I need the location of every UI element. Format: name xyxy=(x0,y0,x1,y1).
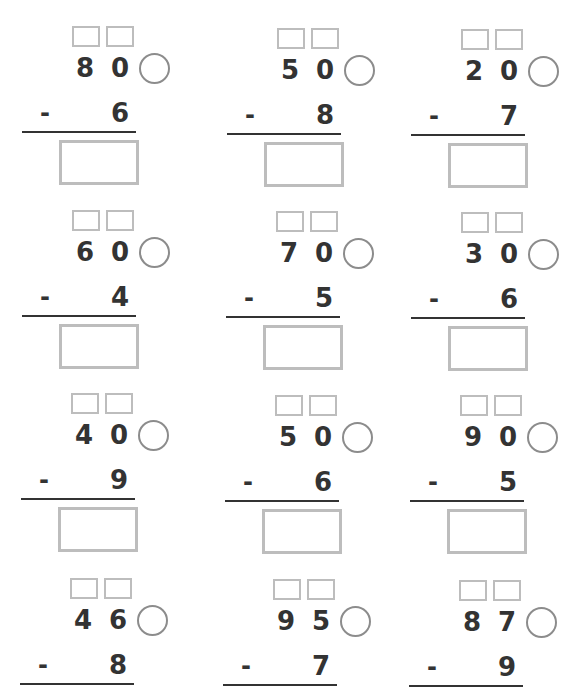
answer-line xyxy=(223,684,337,686)
minuend-tens-digit: 6 xyxy=(71,239,99,265)
regroup-tens-box[interactable] xyxy=(72,210,100,231)
regroup-ones-box[interactable] xyxy=(104,578,132,599)
minus-sign: - xyxy=(427,469,439,495)
answer-line xyxy=(21,498,135,500)
minus-sign: - xyxy=(39,100,51,126)
regroup-tens-box[interactable] xyxy=(461,29,489,50)
minus-sign: - xyxy=(38,467,50,493)
regroup-ones-box[interactable] xyxy=(310,211,338,232)
circle-icon[interactable] xyxy=(526,607,557,638)
answer-line xyxy=(410,500,524,502)
regroup-ones-box[interactable] xyxy=(106,26,134,47)
answer-box[interactable] xyxy=(59,324,139,369)
circle-icon[interactable] xyxy=(344,55,375,86)
subtrahend-digit: 6 xyxy=(309,469,337,495)
regroup-tens-box[interactable] xyxy=(273,579,301,600)
minus-sign: - xyxy=(39,284,51,310)
answer-line xyxy=(22,131,136,133)
answer-box[interactable] xyxy=(448,143,528,188)
regroup-ones-box[interactable] xyxy=(311,28,339,49)
answer-line xyxy=(411,134,525,136)
minuend-tens-digit: 8 xyxy=(458,609,486,635)
answer-box[interactable] xyxy=(58,507,138,552)
answer-line xyxy=(20,683,134,685)
minus-sign: - xyxy=(243,285,255,311)
minuend-ones-digit: 0 xyxy=(310,240,338,266)
answer-box[interactable] xyxy=(59,140,139,185)
answer-box[interactable] xyxy=(262,509,342,554)
regroup-ones-box[interactable] xyxy=(493,580,521,601)
minuend-tens-digit: 5 xyxy=(274,424,302,450)
minuend-tens-digit: 7 xyxy=(275,240,303,266)
subtrahend-digit: 8 xyxy=(104,652,132,678)
regroup-tens-box[interactable] xyxy=(70,578,98,599)
minuend-tens-digit: 8 xyxy=(71,55,99,81)
minuend-tens-digit: 2 xyxy=(460,58,488,84)
minuend-ones-digit: 0 xyxy=(494,424,522,450)
minuend-ones-digit: 6 xyxy=(104,607,132,633)
circle-icon[interactable] xyxy=(528,239,559,270)
regroup-tens-box[interactable] xyxy=(72,26,100,47)
regroup-tens-box[interactable] xyxy=(275,395,303,416)
minus-sign: - xyxy=(426,654,438,680)
subtrahend-digit: 8 xyxy=(311,102,339,128)
regroup-tens-box[interactable] xyxy=(459,580,487,601)
subtrahend-digit: 7 xyxy=(495,103,523,129)
circle-icon[interactable] xyxy=(528,56,559,87)
circle-icon[interactable] xyxy=(137,605,168,636)
minus-sign: - xyxy=(240,653,252,679)
regroup-tens-box[interactable] xyxy=(71,393,99,414)
answer-box[interactable] xyxy=(448,326,528,371)
answer-line xyxy=(227,133,341,135)
minuend-tens-digit: 9 xyxy=(272,608,300,634)
regroup-ones-box[interactable] xyxy=(494,395,522,416)
minuend-ones-digit: 0 xyxy=(106,55,134,81)
circle-icon[interactable] xyxy=(340,606,371,637)
subtrahend-digit: 9 xyxy=(105,467,133,493)
subtrahend-digit: 9 xyxy=(493,654,521,680)
circle-icon[interactable] xyxy=(139,53,170,84)
answer-line xyxy=(226,316,340,318)
answer-box[interactable] xyxy=(263,325,343,370)
minuend-ones-digit: 0 xyxy=(309,424,337,450)
minuend-ones-digit: 0 xyxy=(105,422,133,448)
minus-sign: - xyxy=(242,469,254,495)
subtrahend-digit: 4 xyxy=(106,284,134,310)
circle-icon[interactable] xyxy=(342,422,373,453)
regroup-ones-box[interactable] xyxy=(495,29,523,50)
minuend-ones-digit: 0 xyxy=(106,239,134,265)
minus-sign: - xyxy=(428,286,440,312)
circle-icon[interactable] xyxy=(343,238,374,269)
regroup-tens-box[interactable] xyxy=(276,211,304,232)
regroup-ones-box[interactable] xyxy=(307,579,335,600)
regroup-tens-box[interactable] xyxy=(461,212,489,233)
circle-icon[interactable] xyxy=(138,420,169,451)
regroup-ones-box[interactable] xyxy=(495,212,523,233)
minuend-ones-digit: 0 xyxy=(495,241,523,267)
circle-icon[interactable] xyxy=(527,422,558,453)
subtrahend-digit: 6 xyxy=(495,286,523,312)
answer-line xyxy=(411,317,525,319)
regroup-tens-box[interactable] xyxy=(460,395,488,416)
minuend-ones-digit: 0 xyxy=(495,58,523,84)
regroup-tens-box[interactable] xyxy=(277,28,305,49)
regroup-ones-box[interactable] xyxy=(106,210,134,231)
subtrahend-digit: 5 xyxy=(310,285,338,311)
answer-box[interactable] xyxy=(447,509,527,554)
subtrahend-digit: 5 xyxy=(494,469,522,495)
minuend-tens-digit: 4 xyxy=(69,607,97,633)
minuend-tens-digit: 3 xyxy=(460,241,488,267)
answer-line xyxy=(22,315,136,317)
regroup-ones-box[interactable] xyxy=(105,393,133,414)
subtrahend-digit: 7 xyxy=(307,653,335,679)
answer-box[interactable] xyxy=(264,142,344,187)
minuend-ones-digit: 7 xyxy=(493,609,521,635)
regroup-ones-box[interactable] xyxy=(309,395,337,416)
minuend-ones-digit: 0 xyxy=(311,57,339,83)
minuend-tens-digit: 4 xyxy=(70,422,98,448)
minus-sign: - xyxy=(244,102,256,128)
minuend-tens-digit: 5 xyxy=(276,57,304,83)
subtrahend-digit: 6 xyxy=(106,100,134,126)
circle-icon[interactable] xyxy=(139,237,170,268)
minus-sign: - xyxy=(37,652,49,678)
